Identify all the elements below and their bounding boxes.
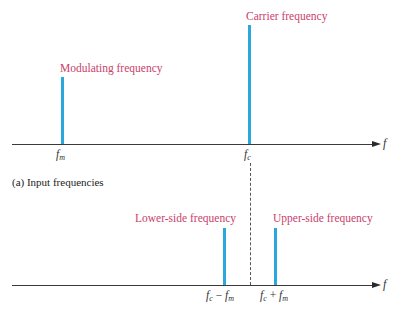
fm-tick-label: fm xyxy=(56,148,65,162)
upper-tick-op: + xyxy=(267,289,279,301)
modulating-frequency-bar xyxy=(61,77,64,144)
upper-side-frequency-label: Upper-side frequency xyxy=(273,212,373,224)
top-axis-arrow-icon xyxy=(372,141,381,147)
fc-minus-fm-tick-label: fc − fm xyxy=(206,289,234,303)
carrier-frequency-bar xyxy=(248,25,251,144)
upper-tick-fm-sub: m xyxy=(282,294,288,303)
fc-tick-sub: c xyxy=(247,153,251,162)
lower-side-frequency-bar xyxy=(223,228,226,285)
top-frequency-axis xyxy=(12,144,376,145)
fc-tick-label: fc xyxy=(244,148,251,162)
carrier-frequency-label: Carrier frequency xyxy=(246,10,327,22)
input-frequencies-caption: (a) Input frequencies xyxy=(12,176,104,188)
modulating-frequency-label: Modulating frequency xyxy=(60,62,163,74)
carrier-dashed-guide xyxy=(250,163,251,285)
top-axis-label: f xyxy=(383,136,386,151)
bottom-axis-label: f xyxy=(383,277,386,292)
lower-tick-op: − xyxy=(213,289,225,301)
lower-tick-fm-sub: m xyxy=(228,294,234,303)
upper-side-frequency-bar xyxy=(274,228,277,285)
fm-tick-sub: m xyxy=(59,153,65,162)
fc-plus-fm-tick-label: fc + fm xyxy=(260,289,288,303)
bottom-axis-arrow-icon xyxy=(372,282,381,288)
lower-side-frequency-label: Lower-side frequency xyxy=(135,212,236,224)
bottom-frequency-axis xyxy=(12,285,376,286)
